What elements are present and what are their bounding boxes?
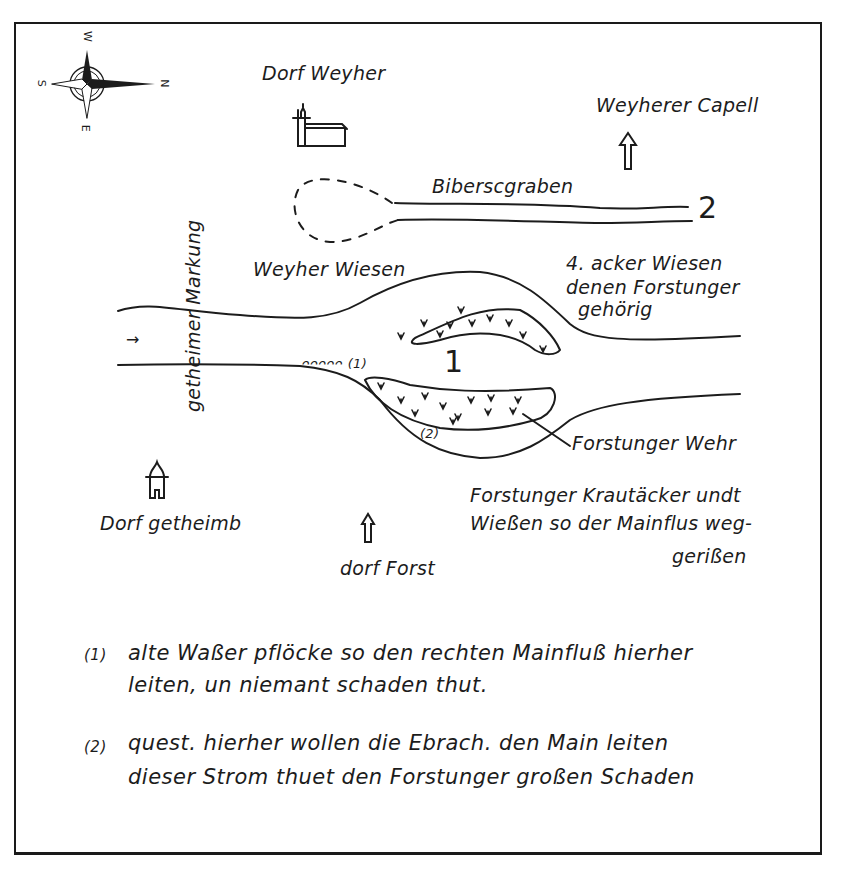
church-icon-getheimb	[146, 462, 168, 498]
label-number-1: 1	[444, 344, 463, 379]
footnote-2-line-2: dieser Strom thuet den Forstunger großen…	[128, 760, 695, 794]
label-getheimer-markung: getheimer Markung	[182, 220, 204, 412]
flow-arrow: →	[126, 330, 140, 349]
compass-west-label: W	[81, 31, 94, 42]
label-dorf-weyher: Dorf Weyher	[262, 62, 385, 84]
footnote-2-line-1: quest. hierher wollen die Ebrach. den Ma…	[128, 726, 669, 760]
label-krautacker-3: gerißen	[672, 545, 747, 567]
compass-rose-icon	[52, 50, 155, 118]
label-marker-2: (2)	[420, 426, 439, 441]
label-dorf-forst: dorf Forst	[340, 557, 435, 579]
church-icon-weyher	[293, 104, 347, 146]
label-forstunger-wehr: Forstunger Wehr	[572, 432, 736, 454]
label-stakes-1: ᴖᴖᴖᴖᴖ (1)	[302, 356, 367, 371]
compass-south-label: S	[35, 80, 48, 87]
compass-north-label: N	[158, 79, 171, 88]
forst-arrow-icon	[362, 514, 374, 542]
label-acker-wiesen-2: denen Forstunger	[566, 276, 740, 298]
footnote-1-line-2: leiten, un niemant schaden thut.	[128, 668, 488, 702]
label-weyher-wiesen: Weyher Wiesen	[253, 258, 406, 280]
capell-arrow-icon	[620, 133, 636, 169]
label-acker-wiesen-1: 4. acker Wiesen	[566, 252, 723, 274]
footnote-2-marker: (2)	[84, 730, 107, 764]
label-krautacker-2: Wießen so der Mainflus weg-	[470, 512, 752, 534]
compass-east-label: E	[79, 125, 92, 132]
footnote-1-line-1: alte Waßer pflöcke so den rechten Mainfl…	[128, 636, 693, 670]
label-number-2: 2	[698, 190, 717, 225]
label-krautacker-1: Forstunger Krautäcker undt	[470, 484, 741, 506]
label-acker-wiesen-3: gehörig	[578, 298, 653, 320]
label-bibersgraben: Biberscgraben	[432, 175, 573, 197]
label-weyherer-capell: Weyherer Capell	[596, 94, 759, 116]
wehr-pointer-line	[523, 414, 570, 446]
footnote-1-marker: (1)	[84, 638, 107, 672]
label-dorf-getheimb: Dorf getheimb	[100, 512, 241, 534]
